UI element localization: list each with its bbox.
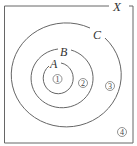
svg-text:1: 1 xyxy=(56,75,60,84)
region-1-marker: 1 xyxy=(53,75,62,85)
set-c-circle xyxy=(11,23,121,127)
svg-text:4: 4 xyxy=(120,128,124,137)
svg-text:2: 2 xyxy=(81,79,85,88)
set-b-label: B xyxy=(60,45,68,59)
set-a-label: A xyxy=(49,57,58,71)
universe-rectangle xyxy=(5,6,134,143)
universe-label-x: X xyxy=(112,0,122,14)
region-4-marker: 4 xyxy=(118,128,127,138)
region-3-marker: 3 xyxy=(106,82,115,92)
euler-diagram: X C B A 1 2 3 4 xyxy=(0,0,137,146)
set-c-label: C xyxy=(93,28,102,42)
svg-text:3: 3 xyxy=(108,82,112,91)
region-2-marker: 2 xyxy=(79,79,88,89)
